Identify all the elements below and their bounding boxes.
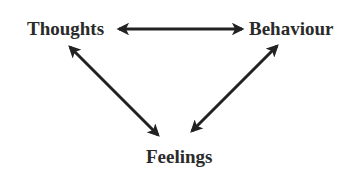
diagram-canvas: Thoughts Behaviour Feelings	[0, 0, 354, 176]
node-feelings: Feelings	[146, 147, 213, 166]
node-thoughts: Thoughts	[27, 19, 104, 38]
arrow-thoughts-feelings	[70, 47, 158, 135]
arrow-behaviour-feelings	[192, 46, 277, 131]
node-behaviour: Behaviour	[249, 19, 333, 38]
